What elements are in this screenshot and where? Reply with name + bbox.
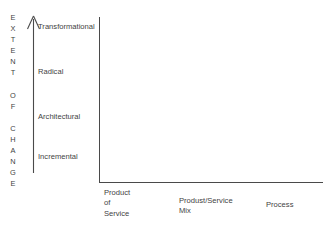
y-axis-label-architectural: Architectural bbox=[38, 112, 80, 121]
x-axis-line bbox=[99, 182, 323, 183]
y-axis-title: E X T E N T O F C H A N G E bbox=[6, 14, 20, 192]
x-axis-label-product-service-mix: Produst/Service Mix bbox=[179, 196, 233, 217]
x-axis-label-process: Process bbox=[266, 200, 293, 210]
arrow-up-icon bbox=[26, 13, 42, 175]
y-axis-label-transformational: Transformational bbox=[38, 22, 95, 31]
y-axis-line bbox=[99, 17, 100, 183]
framework-diagram: E X T E N T O F C H A N G E Transformati… bbox=[0, 0, 327, 237]
y-axis-title-letter: E bbox=[10, 180, 15, 191]
y-axis-title-letter: F bbox=[11, 103, 16, 114]
x-axis-label-product-of-service: Product of Service bbox=[104, 188, 130, 219]
y-axis-title-letter: T bbox=[11, 69, 16, 80]
y-axis-label-radical: Radical bbox=[38, 67, 63, 76]
y-axis-label-incremental: Incremental bbox=[38, 152, 78, 161]
